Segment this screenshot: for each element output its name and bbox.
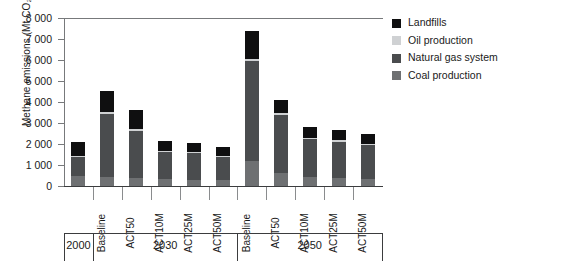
legend-item: Landfills [392, 16, 572, 28]
bar-segment [100, 114, 114, 177]
bar-segment [303, 127, 317, 137]
bar-segment [303, 139, 317, 177]
category-label-cell: ACT50M [209, 187, 238, 233]
legend-item: Oil production [392, 34, 572, 46]
y-tick-label: 0 [6, 181, 52, 192]
legend-label: Oil production [408, 34, 473, 46]
bar-segment [332, 130, 346, 140]
bar-segment [361, 145, 375, 179]
bar-segment [332, 178, 346, 186]
category-label-cell: ACT25M [180, 187, 209, 233]
bar-segment [100, 91, 114, 112]
category-label-cell: ACT10M [295, 187, 324, 233]
category-label-cell: ACT50 [266, 187, 295, 233]
bar-stack [100, 91, 114, 186]
bar-segment [187, 180, 201, 186]
legend-swatch [392, 54, 401, 63]
bar-segment [71, 176, 85, 187]
y-tick-label: 4 000 [6, 97, 52, 108]
bar-stack [274, 100, 288, 186]
category-label-cell: ACT25M [324, 187, 353, 233]
bar-segment [245, 31, 259, 59]
legend-swatch [392, 71, 401, 80]
bar-stack [361, 134, 375, 186]
plot-area [64, 18, 382, 186]
bar-segment [187, 143, 201, 152]
bar-segment [129, 178, 143, 186]
bar-stack [245, 31, 259, 186]
bar-segment [216, 147, 230, 156]
bar-segment [158, 152, 172, 179]
bar-segment [71, 157, 85, 175]
bar-segment [332, 142, 346, 179]
bar-segment [187, 153, 201, 179]
legend-item: Natural gas system [392, 51, 572, 63]
bar-stack [158, 141, 172, 186]
legend-label: Landfills [408, 16, 447, 28]
y-tick-label: 1 000 [6, 160, 52, 171]
x-axis-category-labels: BaselineACT50ACT10MACT25MACT50MBaselineA… [64, 187, 383, 233]
chart-figure: Methane emissions (Mt CO₂ eq) 8 0007 000… [0, 0, 573, 265]
bar-stack [303, 127, 317, 186]
bar-segment [100, 177, 114, 186]
y-tick-label: 2 000 [6, 139, 52, 150]
bar-segment [71, 142, 85, 156]
bar-segment [216, 180, 230, 186]
bar-segment [158, 141, 172, 151]
bar-segment [158, 179, 172, 186]
bar-segment [303, 177, 317, 186]
y-tick-label: 3 000 [6, 118, 52, 129]
y-tick-label: 7 000 [6, 34, 52, 45]
y-tick-label: 8 000 [6, 13, 52, 24]
legend-swatch [392, 36, 401, 45]
chart-legend: LandfillsOil productionNatural gas syste… [392, 16, 572, 86]
category-label-cell: Baseline [93, 187, 122, 233]
group-band-line [64, 233, 383, 234]
bar-segment [274, 173, 288, 186]
bar-segment [216, 157, 230, 180]
bar-segment [361, 134, 375, 144]
bar-segment [274, 100, 288, 113]
legend-swatch [392, 19, 401, 28]
category-label-cell: ACT10M [151, 187, 180, 233]
bar-segment [129, 131, 143, 178]
category-label-cell: Baseline [237, 187, 266, 233]
bar-segment [361, 179, 375, 186]
bar-segment [129, 110, 143, 129]
group-separator [382, 233, 383, 261]
bar-stack [332, 130, 346, 186]
y-tick-label: 6 000 [6, 55, 52, 66]
bar-segment [245, 61, 259, 161]
x-axis-group-label: 2030 [93, 240, 238, 251]
category-label-cell: ACT50M [353, 187, 382, 233]
legend-label: Coal production [408, 69, 482, 81]
bar-series-container [64, 18, 382, 186]
x-axis-group-label: 2050 [237, 240, 382, 251]
bar-stack [71, 142, 85, 186]
x-axis-group-label: 2000 [64, 240, 93, 251]
category-label-cell: ACT50 [122, 187, 151, 233]
bar-stack [187, 143, 201, 186]
legend-item: Coal production [392, 69, 572, 81]
bar-segment [274, 115, 288, 173]
x-axis-group-labels: 200020302050 [64, 233, 383, 261]
legend-label: Natural gas system [408, 51, 498, 63]
bar-stack [129, 110, 143, 186]
bar-stack [216, 147, 230, 186]
y-tick-label: 5 000 [6, 76, 52, 87]
bar-segment [245, 161, 259, 186]
